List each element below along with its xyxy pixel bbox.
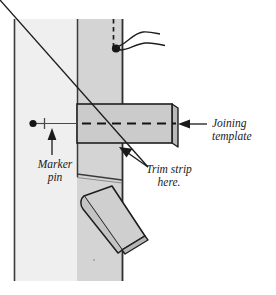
label-joining-template: Joining template [212,117,252,143]
left-panel [14,19,77,281]
diagram-canvas [0,0,276,295]
panel-speck [93,259,95,261]
joining-template-arrowhead-icon [178,120,190,129]
curved-leader-lower [118,43,165,50]
joining-template-figure: Joining template Marker pin Trim strip h… [0,0,276,295]
label-marker-pin: Marker pin [26,158,84,184]
template-side-face [172,104,178,147]
label-trim-strip-here: Trim strip here. [136,163,202,189]
